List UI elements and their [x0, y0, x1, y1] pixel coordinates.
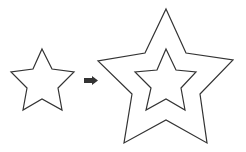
- diagram-canvas: [0, 0, 246, 152]
- result-inner-star-shape: [135, 49, 196, 110]
- source-star-shape: [11, 49, 74, 110]
- result-outer-star-shape: [98, 9, 233, 143]
- arrow-right-icon: [84, 76, 98, 85]
